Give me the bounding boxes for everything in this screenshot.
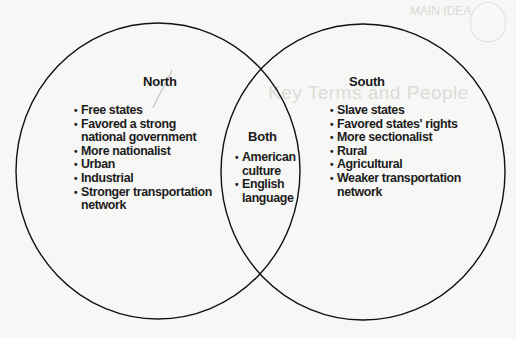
north-item: Favored a strongnational government xyxy=(74,118,212,145)
south-item: Rural xyxy=(330,145,461,159)
south-title: South xyxy=(349,74,385,89)
north-list: Free states Favored a strongnational gov… xyxy=(74,104,212,213)
both-title: Both xyxy=(248,129,277,144)
south-item: Agricultural xyxy=(330,158,461,172)
south-item: Favored states' rights xyxy=(330,118,461,132)
both-item: Englishlanguage xyxy=(235,178,296,205)
south-list: Slave states Favored states' rights More… xyxy=(330,104,461,199)
north-item: Stronger transportationnetwork xyxy=(74,186,212,213)
south-item: Weaker transportationnetwork xyxy=(330,172,461,199)
north-item: Urban xyxy=(74,158,212,172)
north-item: More nationalist xyxy=(74,145,212,159)
page-background: MAIN IDEA ​ Key Terms and People North F… xyxy=(0,0,516,338)
north-item: Free states xyxy=(74,104,212,118)
both-item: Americanculture xyxy=(235,151,296,178)
south-item: Slave states xyxy=(330,104,461,118)
north-title: North xyxy=(143,74,177,89)
north-item: Industrial xyxy=(74,172,212,186)
both-list: Americanculture Englishlanguage xyxy=(235,151,296,205)
south-item: More sectionalist xyxy=(330,131,461,145)
